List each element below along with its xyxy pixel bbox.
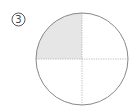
fraction-circle-diagram	[0, 0, 135, 107]
shaded-quadrant	[36, 13, 82, 59]
